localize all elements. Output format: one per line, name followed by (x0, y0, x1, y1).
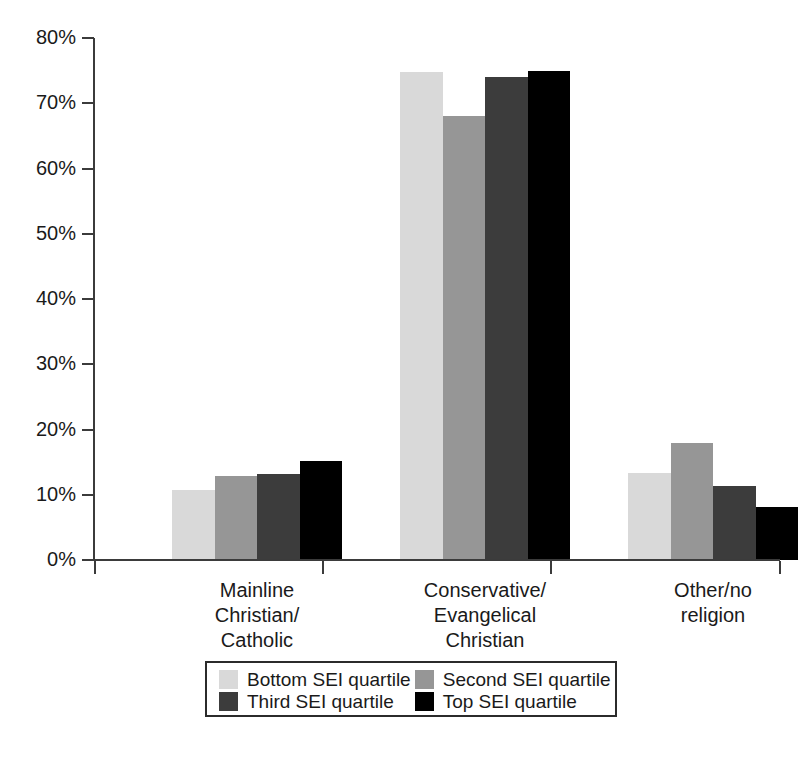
y-axis-tick-label-text: 30% (12, 353, 76, 373)
y-axis-tick-label: 0% (8, 549, 76, 569)
bar (400, 72, 443, 560)
bar (528, 71, 571, 560)
legend-label: Bottom SEI quartile (247, 670, 411, 689)
x-axis-category-label: Other/noreligion (599, 578, 809, 628)
x-axis-separator-tick (94, 561, 96, 574)
legend-swatch-icon (415, 670, 434, 689)
legend-entry[interactable]: Bottom SEI quartile (219, 670, 411, 689)
y-axis-tick-label: 60% (8, 158, 76, 178)
x-axis-category-label-line: Christian (371, 628, 599, 653)
x-axis-category-label-line: Catholic (143, 628, 371, 653)
y-axis-tick-label-text: 70% (12, 92, 76, 112)
bar (300, 461, 343, 560)
legend-swatch-icon (415, 692, 434, 711)
legend-swatch-icon (219, 692, 238, 711)
x-axis-category-label: MainlineChristian/Catholic (143, 578, 371, 653)
legend-label: Third SEI quartile (247, 692, 394, 711)
y-axis-tick-label: 40% (8, 288, 76, 308)
y-axis-tick-label: 70% (8, 92, 76, 112)
bar (215, 476, 258, 560)
bar (257, 474, 300, 560)
bar (172, 490, 215, 560)
bar (713, 486, 756, 560)
y-axis-tick-label-text: 50% (12, 223, 76, 243)
y-axis-tick-label-text: 40% (12, 288, 76, 308)
x-axis-category-label-line: religion (599, 603, 809, 628)
y-axis-tick-label-text: 20% (12, 419, 76, 439)
bar (485, 77, 528, 560)
legend-label: Second SEI quartile (443, 670, 611, 689)
y-axis-tick-label-text: 0% (12, 549, 76, 569)
legend-entry[interactable]: Third SEI quartile (219, 692, 411, 711)
bar-chart: 0%10%20%30%40%50%60%70%80% MainlineChris… (0, 0, 809, 759)
x-axis-separator-tick (322, 561, 324, 574)
x-axis-category-label: Conservative/EvangelicalChristian (371, 578, 599, 653)
y-axis-tick-label: 50% (8, 223, 76, 243)
legend-entry[interactable]: Top SEI quartile (415, 692, 611, 711)
bar (443, 116, 486, 560)
bar (756, 507, 799, 561)
y-axis-tick-label-text: 60% (12, 158, 76, 178)
y-axis-tick-label: 20% (8, 419, 76, 439)
x-axis-separator-tick (550, 561, 552, 574)
x-axis-category-label-line: Conservative/ (371, 578, 599, 603)
legend: Bottom SEI quartileSecond SEI quartileTh… (205, 661, 617, 717)
x-axis-category-label-line: Evangelical (371, 603, 599, 628)
x-axis-separator-tick (779, 561, 781, 574)
x-axis-category-label-line: Mainline (143, 578, 371, 603)
y-axis-tick-label: 80% (8, 27, 76, 47)
x-axis-line (93, 559, 780, 561)
x-axis-category-label-line: Other/no (599, 578, 809, 603)
plot-area (93, 38, 779, 560)
legend-entry[interactable]: Second SEI quartile (415, 670, 611, 689)
legend-label: Top SEI quartile (443, 692, 577, 711)
y-axis-tick-label-text: 10% (12, 484, 76, 504)
legend-swatch-icon (219, 670, 238, 689)
bar (628, 473, 671, 560)
y-axis-tick-label: 30% (8, 353, 76, 373)
y-axis-tick-label-text: 80% (12, 27, 76, 47)
bar (671, 443, 714, 560)
y-axis-tick-label: 10% (8, 484, 76, 504)
x-axis-category-label-line: Christian/ (143, 603, 371, 628)
